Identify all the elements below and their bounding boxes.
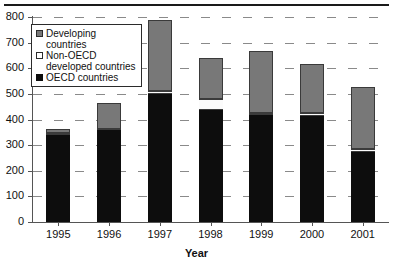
y-axis-tick-label: 600 (6, 61, 24, 74)
y-axis-tick-label: 700 (6, 36, 24, 49)
bar-segment-oecd (249, 115, 273, 222)
y-axis-tick: 200 (28, 171, 33, 172)
legend-item-label: Developing countries (46, 28, 137, 50)
bar-segment-developing (300, 64, 324, 113)
x-axis-tick (312, 222, 313, 226)
gray-square-icon (36, 30, 43, 37)
x-axis-tick (363, 222, 364, 226)
bar-segment-oecd (199, 110, 223, 222)
y-axis-tick-label: 200 (6, 164, 24, 177)
bar-1995 (46, 129, 70, 222)
legend-item-label: OECD countries (46, 72, 118, 83)
x-axis-tick (261, 222, 262, 226)
bar-segment-developing (97, 103, 121, 129)
bar-segment-developing (148, 20, 172, 91)
bar-segment-non-oecd (148, 91, 172, 94)
bar-1997 (148, 20, 172, 222)
bar-segment-developing (351, 87, 375, 149)
x-axis-tick-label: 1995 (33, 228, 84, 241)
x-axis-tick-label: 2000 (287, 228, 338, 241)
y-axis-tick-label: 0 (18, 215, 24, 228)
bar-segment-non-oecd (300, 113, 324, 116)
x-axis-tick-label: 1999 (236, 228, 287, 241)
bar-segment-developing (249, 51, 273, 113)
legend-item-oecd: OECD countries (36, 72, 137, 83)
bar-segment-oecd (300, 116, 324, 222)
black-square-icon (36, 74, 43, 81)
y-axis-tick-label: 500 (6, 87, 24, 100)
bar-segment-non-oecd (351, 149, 375, 151)
bar-1996 (97, 103, 121, 222)
x-axis-tick-label: 1997 (134, 228, 185, 241)
legend-item-developing: Developing countries (36, 28, 137, 50)
chart-legend: Developing countries Non-OECD developed … (31, 24, 142, 87)
y-axis-tick: 0 (28, 222, 33, 223)
y-axis-tick: 400 (28, 120, 33, 121)
x-axis-title: Year (0, 247, 393, 259)
x-axis-tick-label: 2001 (337, 228, 388, 241)
x-axis-tick (160, 222, 161, 226)
bar-segment-oecd (351, 152, 375, 222)
x-axis-tick (109, 222, 110, 226)
bar-segment-developing (46, 129, 70, 133)
y-axis-tick: 300 (28, 145, 33, 146)
x-axis-tick-label: 1998 (185, 228, 236, 241)
bar-2001 (351, 87, 375, 222)
y-axis-tick: 800 (28, 17, 33, 18)
y-axis-tick: 100 (28, 196, 33, 197)
legend-item-non-oecd: Non-OECD developed countries (36, 50, 137, 72)
bar-segment-oecd (97, 130, 121, 222)
bar-2000 (300, 64, 324, 222)
x-axis-tick-label: 1996 (84, 228, 135, 241)
y-axis-tick-label: 800 (6, 10, 24, 23)
bar-segment-developing (199, 58, 223, 99)
bar-1998 (199, 58, 223, 222)
y-axis-tick-label: 300 (6, 138, 24, 151)
y-axis-tick: 500 (28, 94, 33, 95)
y-axis-tick-label: 100 (6, 189, 24, 202)
top-rule-divider (4, 4, 389, 6)
y-axis-tick-label: 400 (6, 113, 24, 126)
legend-item-label: Non-OECD developed countries (46, 50, 136, 72)
x-axis-tick (58, 222, 59, 226)
bar-segment-oecd (46, 135, 70, 222)
bar-1999 (249, 51, 273, 222)
x-axis-tick (211, 222, 212, 226)
bar-segment-oecd (148, 94, 172, 222)
y-gridline (33, 17, 388, 18)
chart-figure: 0100200300400500600700800 19951996199719… (0, 0, 393, 269)
bar-segment-non-oecd (249, 113, 273, 115)
white-square-icon (36, 52, 43, 59)
bar-segment-non-oecd (199, 99, 223, 110)
